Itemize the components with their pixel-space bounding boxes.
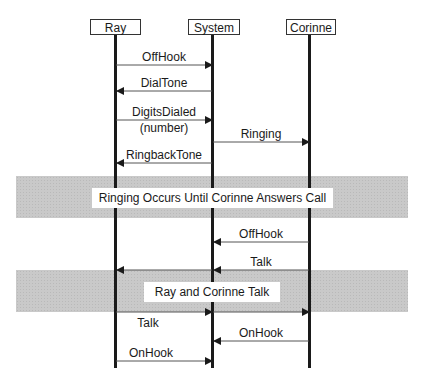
msg-label-onhook-1: OnHook xyxy=(213,326,309,340)
msg-label-offhook-1: OffHook xyxy=(116,50,212,64)
msg-label-talk-2: Talk xyxy=(116,316,180,330)
msg-label-ringing: Ringing xyxy=(213,127,309,141)
msg-sublabel-number: (number) xyxy=(116,121,212,135)
msg-label-onhook-2: OnHook xyxy=(116,346,186,360)
msg-label-dialtone: DialTone xyxy=(116,76,212,90)
msg-label-digitsdialed: DigitsDialed xyxy=(116,105,212,119)
msg-label-offhook-2: OffHook xyxy=(213,227,309,241)
msg-label-ringbacktone: RingbackTone xyxy=(116,148,212,162)
msg-label-talk-1: Talk xyxy=(213,255,309,269)
